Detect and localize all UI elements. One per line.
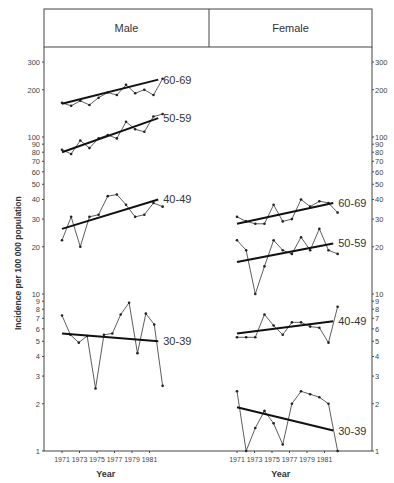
- svg-text:70: 70: [32, 157, 40, 166]
- svg-text:1973: 1973: [247, 456, 263, 463]
- svg-text:1981: 1981: [142, 456, 158, 463]
- svg-text:2: 2: [36, 400, 40, 409]
- svg-text:2: 2: [375, 400, 379, 409]
- svg-text:50: 50: [375, 180, 383, 189]
- series-male-50-59: 50-59: [61, 112, 192, 155]
- svg-text:5: 5: [375, 337, 379, 346]
- svg-text:70: 70: [375, 157, 383, 166]
- svg-text:40: 40: [32, 195, 40, 204]
- svg-text:30: 30: [375, 215, 383, 224]
- series-female-60-69: 60-69: [236, 197, 367, 225]
- plot-area: 60-6950-5940-4930-3960-6950-5940-4930-39: [61, 74, 367, 453]
- incidence-chart: 1122334455667788991010202030304040505060…: [0, 0, 394, 483]
- svg-text:60: 60: [32, 168, 40, 177]
- svg-text:Incidence per 100 000 populati: Incidence per 100 000 population: [13, 196, 23, 330]
- svg-text:60-69: 60-69: [163, 74, 191, 86]
- svg-text:10: 10: [32, 290, 40, 299]
- svg-text:40: 40: [375, 195, 383, 204]
- svg-text:1979: 1979: [299, 456, 315, 463]
- svg-text:Year: Year: [271, 469, 291, 479]
- svg-text:1977: 1977: [282, 456, 298, 463]
- svg-text:100: 100: [27, 133, 40, 142]
- svg-text:30: 30: [32, 215, 40, 224]
- svg-text:200: 200: [27, 86, 40, 95]
- svg-text:1973: 1973: [72, 456, 88, 463]
- svg-text:6: 6: [36, 325, 40, 334]
- svg-text:7: 7: [375, 314, 379, 323]
- svg-text:1979: 1979: [124, 456, 140, 463]
- svg-text:20: 20: [32, 243, 40, 252]
- svg-text:1975: 1975: [89, 456, 105, 463]
- svg-text:40-49: 40-49: [163, 193, 191, 205]
- svg-text:4: 4: [375, 352, 379, 361]
- svg-text:8: 8: [36, 305, 40, 314]
- svg-text:80: 80: [375, 148, 383, 157]
- svg-text:30-39: 30-39: [163, 335, 191, 347]
- svg-text:60: 60: [375, 168, 383, 177]
- svg-text:40-49: 40-49: [338, 315, 366, 327]
- svg-text:30-39: 30-39: [338, 425, 366, 437]
- series-female-50-59: 50-59: [236, 228, 367, 296]
- series-female-30-39: 30-39: [236, 390, 367, 452]
- svg-text:300: 300: [375, 58, 388, 67]
- svg-text:1971: 1971: [54, 456, 70, 463]
- svg-text:7: 7: [36, 314, 40, 323]
- svg-text:4: 4: [36, 352, 40, 361]
- svg-text:80: 80: [32, 148, 40, 157]
- svg-text:1: 1: [375, 447, 379, 456]
- svg-text:6: 6: [375, 325, 379, 334]
- svg-text:20: 20: [375, 243, 383, 252]
- svg-text:100: 100: [375, 133, 388, 142]
- series-male-40-49: 40-49: [61, 193, 192, 248]
- svg-text:Year: Year: [96, 469, 116, 479]
- svg-text:1: 1: [36, 447, 40, 456]
- svg-text:200: 200: [375, 86, 388, 95]
- chart-frame: [44, 9, 372, 47]
- series-female-40-49: 40-49: [236, 305, 367, 344]
- svg-text:1975: 1975: [264, 456, 280, 463]
- svg-text:1981: 1981: [317, 456, 333, 463]
- series-male-60-69: 60-69: [61, 74, 192, 107]
- svg-text:1971: 1971: [229, 456, 245, 463]
- svg-text:10: 10: [375, 290, 383, 299]
- svg-text:50-59: 50-59: [163, 112, 191, 124]
- svg-text:300: 300: [27, 58, 40, 67]
- series-male-30-39: 30-39: [61, 301, 192, 389]
- svg-text:50: 50: [32, 180, 40, 189]
- svg-text:8: 8: [375, 305, 379, 314]
- svg-text:3: 3: [375, 372, 379, 381]
- svg-text:50-59: 50-59: [338, 237, 366, 249]
- axes: 1122334455667788991010202030304040505060…: [13, 47, 388, 479]
- svg-text:5: 5: [36, 337, 40, 346]
- svg-text:60-69: 60-69: [338, 197, 366, 209]
- svg-text:3: 3: [36, 372, 40, 381]
- svg-text:1977: 1977: [107, 456, 123, 463]
